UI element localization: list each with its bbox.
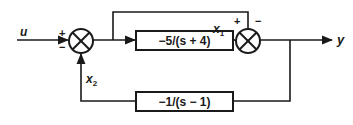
feedback-return-line (234, 40, 290, 101)
sum1-plus-sign: + (59, 28, 65, 39)
output-label: y (337, 33, 344, 46)
sum2-minus-sign: − (255, 16, 261, 27)
summing-junction-2 (236, 29, 260, 53)
sum2-plus-sign: + (234, 16, 240, 27)
x1-name: x (213, 22, 220, 36)
feedback-block: −1/(s − 1) (135, 91, 234, 112)
x2-subscript: 2 (93, 79, 97, 88)
x1-signal-label: x1 (213, 23, 224, 38)
x1-subscript: 1 (220, 29, 224, 38)
summing-junction-1 (69, 29, 93, 53)
feedback-transfer-function: −1/(s − 1) (158, 95, 210, 109)
x2-signal-label: x2 (86, 73, 97, 88)
sum1-minus-sign: − (59, 42, 65, 53)
x2-name: x (86, 72, 93, 86)
input-label: u (20, 26, 27, 38)
forward-transfer-function: −5/(s + 4) (158, 34, 210, 48)
